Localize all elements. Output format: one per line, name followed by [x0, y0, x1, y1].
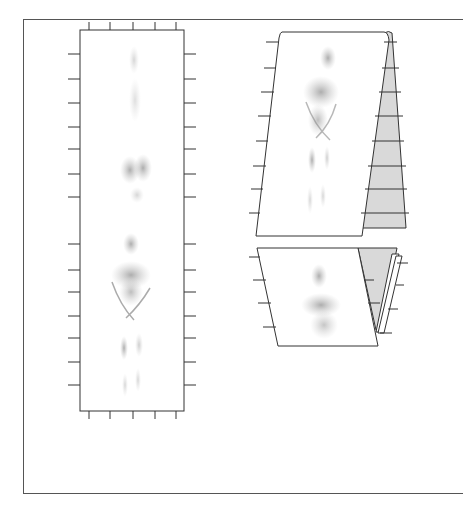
- bottom-ticks: [89, 411, 176, 419]
- top-ticks: [89, 22, 176, 30]
- right-ticks: [184, 54, 196, 385]
- left-ticks: [68, 54, 80, 385]
